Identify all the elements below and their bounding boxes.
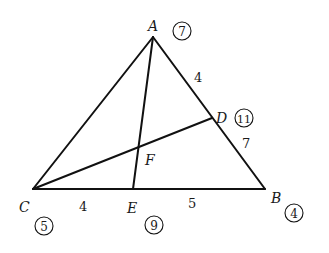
segment-length-eb: 5 (188, 196, 196, 211)
badge-c: 5 (40, 220, 48, 234)
point-label-f: F (144, 152, 156, 168)
segment-length-ad: 4 (194, 70, 202, 85)
point-label-a: A (146, 18, 158, 34)
badge-b: 4 (290, 207, 298, 221)
segment-length-ce: 4 (79, 199, 87, 214)
segment-length-db: 7 (242, 136, 250, 151)
point-label-d: D (215, 110, 227, 126)
badge-a: 7 (178, 25, 186, 39)
point-label-b: B (270, 190, 281, 206)
point-label-e: E (126, 200, 137, 216)
triangle-diagram: A 7 D 11 F C 5 E 9 B 4 4 7 4 5 (0, 0, 329, 253)
badge-e: 9 (150, 219, 158, 233)
point-label-c: C (19, 199, 30, 215)
badge-d: 11 (237, 113, 251, 126)
